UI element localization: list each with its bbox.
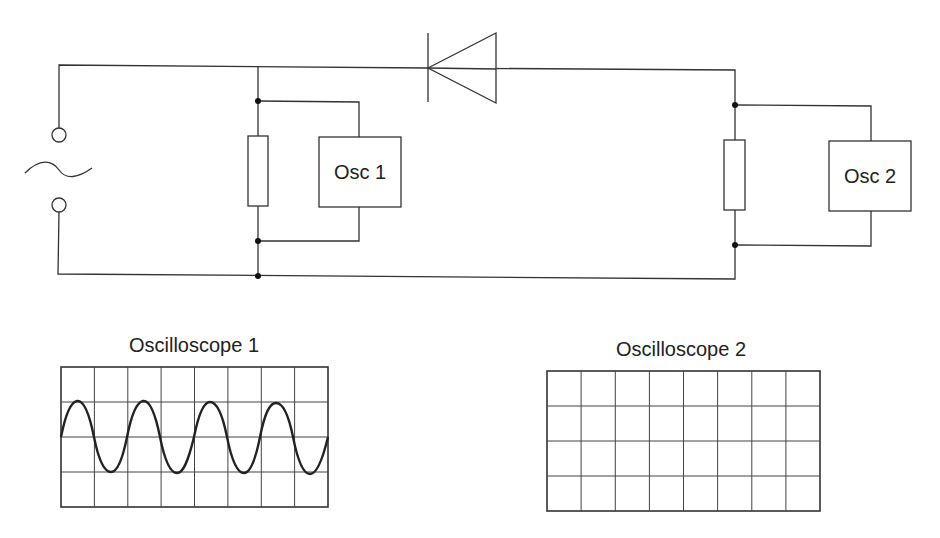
oscilloscope-2: Oscilloscope 2	[547, 338, 820, 511]
osc-1-label: Osc 1	[334, 161, 386, 183]
resistor-1	[248, 136, 268, 206]
bottom-wire	[58, 210, 735, 279]
top-wire-left	[59, 65, 428, 128]
osc-2-label: Osc 2	[844, 165, 896, 187]
circuit-diagram: Osc 1 Osc 2 Oscilloscope 1 Oscilloscope …	[0, 0, 940, 538]
osc-1-box: Osc 1	[319, 137, 401, 207]
ac-tilde-icon	[25, 162, 92, 176]
diode	[428, 33, 496, 103]
oscilloscope-1-title: Oscilloscope 1	[129, 334, 259, 356]
terminal-bottom	[52, 198, 66, 212]
terminal-top	[52, 128, 66, 142]
circuit-svg: Osc 1 Osc 2 Oscilloscope 1 Oscilloscope …	[0, 0, 940, 538]
oscilloscope-1: Oscilloscope 1	[61, 334, 328, 507]
oscilloscope-2-title: Oscilloscope 2	[616, 338, 746, 360]
osc-2-box: Osc 2	[829, 141, 911, 211]
resistor-2	[724, 140, 745, 210]
wires	[58, 65, 871, 279]
ac-source	[25, 128, 92, 212]
